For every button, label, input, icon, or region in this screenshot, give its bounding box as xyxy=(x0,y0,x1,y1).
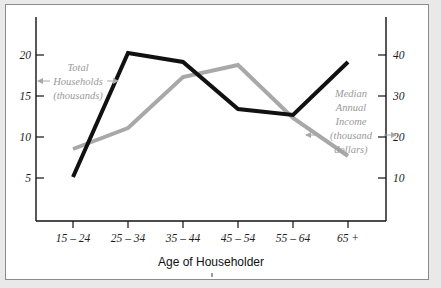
left-annotation-line-2: Households xyxy=(52,76,103,87)
x-category-label-45-54: 45 – 54 xyxy=(221,232,256,244)
right-y-axis: 40 30 20 10 xyxy=(378,17,405,221)
right-annotation-line-4: (thousand xyxy=(330,130,373,142)
line-chart: 20 15 10 5 40 30 20 10 15 – 24 xyxy=(6,5,428,279)
right-tick-label-30: 30 xyxy=(392,90,405,102)
right-series-annotation: Median Annual Income (thousand dollars) xyxy=(305,88,397,156)
left-annotation-line-3: (thousands) xyxy=(53,90,103,102)
x-category-label-35-44: 35 – 44 xyxy=(165,232,201,244)
right-tick-label-10: 10 xyxy=(393,172,405,184)
x-category-label-15-24: 15 – 24 xyxy=(56,232,91,244)
x-category-label-65-plus: 65 + xyxy=(337,232,359,244)
left-series-annotation: Total Households (thousands) xyxy=(37,62,119,102)
right-annotation-line-1: Median xyxy=(334,88,367,99)
right-annotation-line-5: dollars) xyxy=(334,144,368,156)
x-axis: 15 – 24 25 – 34 35 – 44 45 – 54 55 – 64 … xyxy=(36,221,386,269)
x-axis-title: Age of Householder xyxy=(158,255,264,269)
left-tick-label-15: 15 xyxy=(20,90,32,102)
left-tick-label-5: 5 xyxy=(25,172,31,184)
x-category-label-25-34: 25 – 34 xyxy=(111,232,146,244)
left-y-axis: 20 15 10 5 xyxy=(20,17,45,221)
right-tick-label-20: 20 xyxy=(393,131,405,143)
left-tick-label-10: 10 xyxy=(20,131,32,143)
left-annotation-line-1: Total xyxy=(67,62,88,73)
right-annotation-line-2: Annual xyxy=(335,102,366,113)
chart-figure-frame: 20 15 10 5 40 30 20 10 15 – 24 xyxy=(5,4,429,280)
left-tick-label-20: 20 xyxy=(20,49,32,61)
x-category-label-55-64: 55 – 64 xyxy=(276,232,311,244)
right-tick-label-40: 40 xyxy=(393,49,405,61)
right-annotation-line-3: Income xyxy=(335,116,367,127)
left-annotation-arrow-left xyxy=(37,78,50,84)
scan-artifact-mark xyxy=(211,273,213,277)
